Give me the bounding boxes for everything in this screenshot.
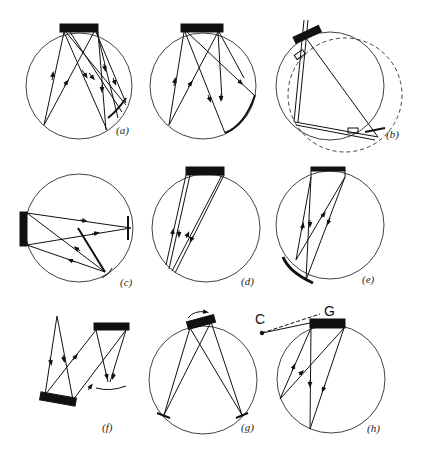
panel-label-c: (c) bbox=[120, 276, 132, 288]
panel-a-left bbox=[26, 24, 132, 139]
panel-label-a: (a) bbox=[116, 124, 129, 136]
panel-f bbox=[40, 316, 129, 406]
panel-d bbox=[152, 167, 260, 282]
diagram-svg bbox=[0, 0, 423, 455]
center-label-c: C bbox=[255, 311, 265, 327]
panel-label-g: (g) bbox=[241, 421, 254, 433]
panel-label-d: (d) bbox=[241, 275, 254, 287]
panel-c bbox=[20, 174, 133, 282]
panel-label-e: (e) bbox=[362, 273, 374, 285]
figure-canvas: (a) (b) (c) (d) (e) (f) (g) (h) C G bbox=[0, 0, 423, 455]
panel-a-right bbox=[150, 24, 256, 139]
panel-label-b: (b) bbox=[386, 128, 399, 140]
panel-label-f: (f) bbox=[102, 421, 112, 433]
panel-b bbox=[276, 20, 402, 152]
panel-h bbox=[260, 314, 385, 433]
panel-e bbox=[276, 167, 384, 283]
grating-label-g: G bbox=[324, 303, 335, 319]
panel-label-h: (h) bbox=[367, 422, 380, 434]
panel-g bbox=[149, 312, 257, 434]
